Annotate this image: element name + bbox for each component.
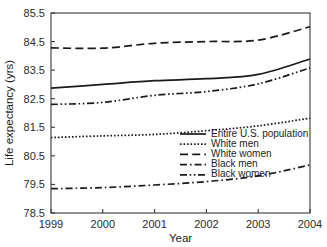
- legend-label-4: Black women: [211, 168, 270, 179]
- series-line-3: [51, 165, 310, 189]
- y-tick-label: 81.5: [24, 121, 45, 133]
- y-axis-title: Life expectancy (yrs): [3, 60, 15, 166]
- x-tick-label: 1999: [39, 218, 63, 230]
- y-axis-ticks: 78.579.580.581.582.583.584.585.5: [24, 7, 55, 219]
- x-axis-title: Year: [169, 232, 192, 244]
- chart-canvas: 78.579.580.581.582.583.584.585.5 1999200…: [0, 0, 327, 247]
- x-axis-ticks: 199920002001200220032004: [39, 209, 322, 230]
- y-tick-label: 82.5: [24, 93, 45, 105]
- y-tick-label: 84.5: [24, 36, 45, 48]
- x-tick-label: 2000: [91, 218, 115, 230]
- chart-legend: Entire U.S. populationWhite menWhite wom…: [180, 128, 308, 180]
- x-tick-label: 2002: [194, 218, 218, 230]
- x-tick-label: 2004: [298, 218, 322, 230]
- series-line-0: [51, 59, 310, 88]
- x-tick-label: 2001: [142, 218, 166, 230]
- x-tick-label: 2003: [246, 218, 270, 230]
- series-line-2: [51, 27, 310, 49]
- y-tick-label: 80.5: [24, 150, 45, 162]
- y-tick-label: 79.5: [24, 178, 45, 190]
- life-expectancy-chart: 78.579.580.581.582.583.584.585.5 1999200…: [0, 0, 327, 247]
- y-tick-label: 85.5: [24, 7, 45, 19]
- y-tick-label: 83.5: [24, 64, 45, 76]
